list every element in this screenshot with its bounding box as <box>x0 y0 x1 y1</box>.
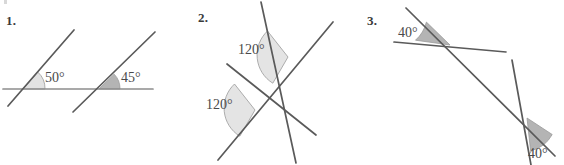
figure-2: 2. 120° 120° <box>188 0 358 165</box>
angle-label-40-upper: 40° <box>398 26 418 40</box>
figure-1: 1. 50° 45° <box>0 0 188 165</box>
steep-line <box>261 2 296 163</box>
transversal-line-right <box>73 32 155 112</box>
angle-wedge-50 <box>23 72 45 89</box>
angle-label-120-lower: 120° <box>206 98 233 112</box>
upper-line <box>394 42 506 52</box>
figure-3: 3. 40° 40° <box>358 0 564 165</box>
angle-label-120-upper: 120° <box>238 43 265 57</box>
angle-label-50: 50° <box>45 71 65 85</box>
transversal-line <box>406 8 555 156</box>
transversal-line-left <box>8 30 74 106</box>
figure-2-diagram <box>188 0 358 165</box>
angle-label-40-lower: 40° <box>528 147 548 161</box>
figure-1-diagram <box>0 0 188 165</box>
geometry-worksheet: 1. 50° 45° 2. <box>0 0 564 165</box>
angle-label-45: 45° <box>121 71 141 85</box>
figure-3-diagram <box>358 0 564 165</box>
